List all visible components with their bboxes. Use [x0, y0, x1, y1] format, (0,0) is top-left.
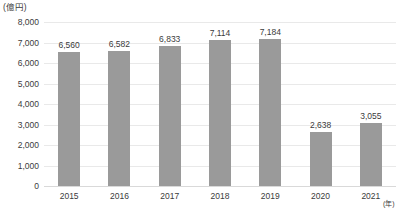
x-axis-tick-label: 2021 [361, 191, 380, 201]
y-axis-tick-label: 8,000 [18, 18, 39, 27]
x-axis-tick-label: 2018 [211, 191, 230, 201]
x-axis-tick-label: 2017 [160, 191, 179, 201]
x-axis-tick-label: 2020 [311, 191, 330, 201]
bar [209, 40, 231, 186]
y-axis-tick-label: 5,000 [18, 79, 39, 88]
y-axis-tick-label: 3,000 [18, 120, 39, 129]
x-axis-tick-label: 2019 [261, 191, 280, 201]
bar-group: 2,6382020 [295, 22, 345, 186]
bar [58, 52, 80, 186]
bar-group: 7,1142018 [195, 22, 245, 186]
plot-area: 01,0002,0003,0004,0005,0006,0007,0008,00… [44, 22, 396, 186]
bar-group: 3,0552021 [346, 22, 396, 186]
bar-value-label: 7,114 [210, 28, 231, 38]
bar-group: 6,8332017 [145, 22, 195, 186]
x-axis-tick-label: 2015 [60, 191, 79, 201]
y-axis-tick-label: 4,000 [18, 100, 39, 109]
y-axis-tick-label: 0 [34, 182, 39, 191]
bar [259, 39, 281, 186]
bar [159, 46, 181, 186]
bar-value-label: 6,560 [59, 40, 80, 50]
y-axis-tick-label: 1,000 [18, 161, 39, 170]
bar-value-label: 6,833 [159, 34, 180, 44]
bar-value-label: 7,184 [260, 27, 281, 37]
bar [108, 51, 130, 186]
x-axis-unit-label: (年) [383, 199, 395, 208]
bar-value-label: 2,638 [310, 120, 331, 130]
y-axis-unit-label: (億円) [3, 2, 27, 13]
y-axis-tick-label: 2,000 [18, 141, 39, 150]
x-axis-tick-label: 2016 [110, 191, 129, 201]
y-axis-tick-label: 7,000 [18, 38, 39, 47]
bar-chart: (億円) 01,0002,0003,0004,0005,0006,0007,00… [0, 0, 404, 215]
bar-value-label: 3,055 [360, 111, 381, 121]
bar-group: 6,5822016 [94, 22, 144, 186]
bar [360, 123, 382, 186]
bar [310, 132, 332, 186]
bar-group: 6,5602015 [44, 22, 94, 186]
y-axis-tick-label: 6,000 [18, 59, 39, 68]
gridline [44, 186, 396, 187]
bar-value-label: 6,582 [109, 39, 130, 49]
bar-group: 7,1842019 [245, 22, 295, 186]
